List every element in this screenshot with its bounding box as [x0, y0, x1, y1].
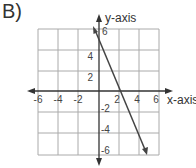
y-tick: 2: [87, 72, 93, 83]
axes: [30, 17, 170, 163]
x-tick: 4: [134, 94, 140, 105]
x-axis-title: x-axis: [167, 93, 196, 107]
x-tick: 2: [114, 94, 120, 105]
y-tick: -4: [101, 124, 110, 135]
x-tick: 6: [153, 94, 159, 105]
x-tick: -2: [74, 94, 83, 105]
line-bottom-arrow-icon: [142, 147, 148, 155]
y-tick: 4: [87, 51, 93, 62]
y-axis-title: y-axis: [105, 11, 136, 25]
x-tick: -4: [54, 94, 63, 105]
line-top-arrow-icon: [93, 26, 98, 34]
x-tick: -6: [34, 94, 43, 105]
y-axis-up-arrow-icon: [96, 14, 102, 22]
y-tick: -6: [101, 145, 110, 156]
y-tick: -2: [101, 103, 110, 114]
y-axis-down-arrow-icon: [96, 158, 102, 166]
y-tick: 6: [102, 26, 108, 37]
coordinate-plane: y-axis x-axis -6 -4 -2 2 4 6 6 4 2 -2 -4…: [0, 0, 196, 168]
